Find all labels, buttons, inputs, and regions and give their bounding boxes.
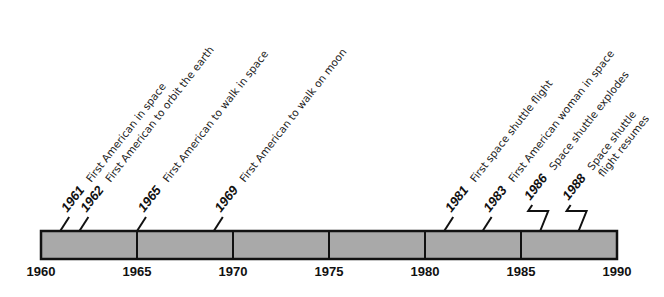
event-connector <box>483 217 492 231</box>
event-year-label: 1983 <box>480 182 510 215</box>
event-year-label: 1988 <box>559 170 589 203</box>
axis-tick-label: 1975 <box>315 264 344 279</box>
event-year-label: 1969 <box>211 182 241 215</box>
axis-tick-label: 1960 <box>27 264 56 279</box>
timeline-events: 1961First American in space1962First Ame… <box>58 44 651 231</box>
event-connector <box>60 217 69 231</box>
event-connector <box>444 217 453 231</box>
timeline-event: 1988Space shuttleflight resumes <box>559 108 651 231</box>
event-description: First American to orbit the earth <box>103 44 216 185</box>
timeline-event: 1961First American in space <box>58 80 168 231</box>
axis-tick-label: 1985 <box>507 264 536 279</box>
timeline-svg: 1960196519701975198019851990 1961First A… <box>0 0 664 297</box>
zigzag-connector <box>528 205 548 231</box>
timeline-event: 1965First American to walk in space <box>135 48 271 231</box>
axis-tick-label: 1970 <box>219 264 248 279</box>
timeline-diagram: 1960196519701975198019851990 1961First A… <box>0 0 664 297</box>
axis-tick-label: 1965 <box>123 264 152 279</box>
axis-tick-label: 1980 <box>411 264 440 279</box>
event-connector <box>79 217 88 231</box>
axis-tick-label: 1990 <box>603 264 632 279</box>
zigzag-connector <box>567 205 587 231</box>
event-year-label: 1981 <box>442 183 472 215</box>
event-description: First American in space <box>83 80 168 184</box>
event-year-label: 1965 <box>135 182 165 215</box>
timeline-event: 1969First American to walk on moon <box>211 46 348 231</box>
event-year-label: 1986 <box>521 170 551 203</box>
event-connector <box>214 217 223 231</box>
event-connector <box>137 217 146 231</box>
event-year-label: 1962 <box>77 182 107 215</box>
